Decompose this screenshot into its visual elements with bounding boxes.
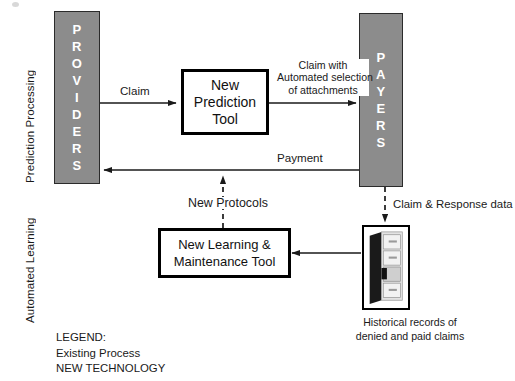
edge-label-line: of attachments (277, 84, 369, 96)
actor-letter: A (376, 66, 386, 83)
actor-letter: S (376, 134, 385, 151)
actor-letter: R (72, 140, 82, 157)
actor-letter: D (72, 106, 82, 123)
edge-label-payment: Payment (277, 152, 323, 164)
actor-letter: V (72, 72, 81, 89)
node-learning-tool-label: New Learning & Maintenance Tool (174, 236, 276, 270)
actor-letter: E (72, 123, 81, 140)
caption-line: denied and paid claims (330, 330, 490, 344)
actor-providers[interactable]: P R O V I D E R S (54, 11, 100, 184)
actor-providers-letters: P R O V I D E R S (72, 21, 83, 174)
actor-letter: E (376, 100, 385, 117)
edge-label-line: Automated selection (277, 71, 369, 83)
edge-label-claim-with-attachments: Claim with Automated selection of attach… (277, 59, 369, 96)
node-prediction-tool-label: New Prediction Tool (194, 77, 256, 128)
diagram-canvas: Prediction Processing Automated Learning… (0, 0, 515, 381)
node-historical-records[interactable] (362, 225, 410, 310)
node-learning-tool[interactable]: New Learning & Maintenance Tool (158, 228, 291, 278)
actor-letter: P (376, 49, 385, 66)
node-label-line: Maintenance Tool (174, 253, 276, 270)
node-label-line: Prediction (194, 94, 256, 111)
node-label-line: Tool (194, 111, 256, 128)
actor-payers[interactable]: P A Y E R S (359, 13, 403, 187)
actor-payers-letters: P A Y E R S (376, 49, 386, 151)
caption-line: Historical records of (330, 316, 490, 330)
caption-historical-records: Historical records of denied and paid cl… (330, 316, 490, 343)
node-prediction-tool[interactable]: New Prediction Tool (181, 69, 269, 135)
actor-letter: O (72, 55, 83, 72)
actor-letter: R (72, 38, 82, 55)
actor-letter: P (72, 21, 81, 38)
node-label-line: New (194, 77, 256, 94)
file-cabinet-icon (367, 230, 405, 305)
legend: LEGEND: Existing Process NEW TECHNOLOGY (56, 330, 165, 377)
node-label-line: New Learning & (174, 236, 276, 253)
actor-letter: S (72, 157, 81, 174)
edge-label-claim: Claim (120, 85, 150, 97)
edge-label-claim-response-data: Claim & Response data (393, 198, 513, 210)
actor-letter: I (75, 89, 79, 106)
actor-letter: Y (376, 83, 385, 100)
legend-title: LEGEND: (56, 330, 165, 346)
actor-letter: R (376, 117, 386, 134)
legend-entry-new-technology: NEW TECHNOLOGY (56, 361, 165, 377)
legend-entry-existing-process: Existing Process (56, 346, 165, 362)
edge-label-line: Claim with (277, 59, 369, 71)
edge-label-new-protocols: New Protocols (186, 197, 270, 209)
